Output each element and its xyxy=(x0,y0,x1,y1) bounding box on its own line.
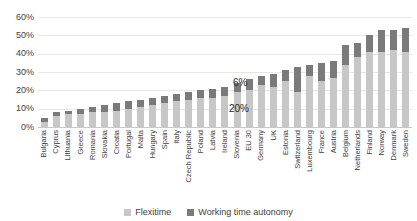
x-label-slot: Spain xyxy=(159,130,171,149)
bar-sweden xyxy=(400,17,412,127)
bar-segment xyxy=(402,28,409,52)
x-tick-label: Slovakia xyxy=(100,130,109,158)
bar-segment xyxy=(378,52,385,127)
x-tick-label: Slovenia xyxy=(232,130,241,159)
bar-segment xyxy=(258,85,265,127)
bar-segment xyxy=(65,114,72,127)
x-tick-label: Sweden xyxy=(401,130,410,157)
bar-croatia xyxy=(110,17,122,127)
bar-bulgaria xyxy=(38,17,50,127)
x-tick-label: Hungary xyxy=(148,130,157,158)
x-label-slot: Austria xyxy=(328,130,340,153)
x-tick-label: Norway xyxy=(377,130,386,155)
x-tick-label: Finland xyxy=(365,130,374,155)
bar-segment xyxy=(77,114,84,127)
bar-segment xyxy=(209,98,216,127)
bar-segment xyxy=(113,103,120,110)
bar-segment xyxy=(258,76,265,85)
bar-segment xyxy=(318,63,325,81)
bar-segment xyxy=(161,96,168,103)
bar-finland xyxy=(364,17,376,127)
bar-cyprus xyxy=(50,17,62,127)
x-tick-label: Italy xyxy=(172,130,181,144)
x-label-slot: Cyprus xyxy=(50,130,62,154)
bar-segment xyxy=(294,92,301,127)
bar-segment xyxy=(125,101,132,108)
x-tick-label: Poland xyxy=(196,130,205,153)
bar-austria xyxy=(328,17,340,127)
bar-segment xyxy=(342,45,349,65)
bar-segment xyxy=(402,52,409,127)
bar-italy xyxy=(171,17,183,127)
bar-spain xyxy=(159,17,171,127)
bar-greece xyxy=(74,17,86,127)
x-label-slot: Portugal xyxy=(122,130,134,158)
x-label-slot: Malta xyxy=(135,130,147,148)
bar-segment xyxy=(41,122,48,128)
bar-slovakia xyxy=(98,17,110,127)
bar-portugal xyxy=(122,17,134,127)
x-tick-label: Czech Republic xyxy=(184,130,193,183)
bar-segment xyxy=(366,35,373,52)
bar-estonia xyxy=(279,17,291,127)
bar-segment xyxy=(221,87,228,96)
x-label-slot: EU 30 xyxy=(243,130,255,151)
y-tick-label: 10% xyxy=(2,103,34,114)
bar-latvia xyxy=(207,17,219,127)
x-label-slot: Italy xyxy=(171,130,183,144)
bar-czech-republic xyxy=(183,17,195,127)
bar-segment xyxy=(282,70,289,81)
x-label-slot: Ireland xyxy=(219,130,231,153)
bar-segment xyxy=(282,81,289,127)
x-tick-label: Luxembourg xyxy=(305,130,314,172)
bar-netherlands xyxy=(352,17,364,127)
bar-segment xyxy=(125,109,132,127)
bar-segment xyxy=(366,52,373,127)
bar-denmark xyxy=(388,17,400,127)
bar-belgium xyxy=(340,17,352,127)
x-label-slot: France xyxy=(315,130,327,153)
legend-label: Working time autonomy xyxy=(198,207,292,217)
bar-segment xyxy=(330,78,337,128)
legend-marker xyxy=(124,209,131,216)
bar-segment xyxy=(306,65,313,76)
bar-segment xyxy=(197,98,204,127)
bar-luxembourg xyxy=(303,17,315,127)
x-label-slot: Switzerland xyxy=(291,130,303,169)
bar-segment xyxy=(342,65,349,127)
bar-segment xyxy=(221,96,228,127)
bar-segment xyxy=(101,105,108,112)
bar-segment xyxy=(89,112,96,127)
bar-uk xyxy=(267,17,279,127)
bar-segment xyxy=(173,101,180,127)
x-tick-label: Estonia xyxy=(281,130,290,155)
legend-item: Flexitime xyxy=(124,207,171,217)
x-tick-label: Spain xyxy=(160,130,169,149)
bar-segment xyxy=(197,90,204,97)
x-label-slot: Netherlands xyxy=(352,130,364,170)
x-label-slot: Germany xyxy=(255,130,267,161)
x-tick-label: Malta xyxy=(136,130,145,148)
bar-segment xyxy=(137,100,144,107)
x-tick-label: Portugal xyxy=(124,130,133,158)
x-label-slot: Hungary xyxy=(147,130,159,158)
bar-segment xyxy=(185,92,192,99)
bar-romania xyxy=(86,17,98,127)
bar-poland xyxy=(195,17,207,127)
x-tick-label: EU 30 xyxy=(244,130,253,151)
x-label-slot: Latvia xyxy=(207,130,219,150)
x-label-slot: Luxembourg xyxy=(303,130,315,172)
bar-segment xyxy=(378,30,385,52)
x-tick-label: Austria xyxy=(329,130,338,153)
bar-segment xyxy=(149,98,156,105)
x-tick-label: Denmark xyxy=(389,130,398,160)
x-label-slot: Norway xyxy=(376,130,388,155)
bar-segment xyxy=(330,61,337,78)
bar-segment xyxy=(390,30,397,50)
bar-segment xyxy=(306,76,313,127)
x-label-slot: Sweden xyxy=(400,130,412,157)
y-tick-label: 20% xyxy=(2,85,34,96)
y-tick-label: 40% xyxy=(2,48,34,59)
x-label-slot: Estonia xyxy=(279,130,291,155)
bar-france xyxy=(315,17,327,127)
